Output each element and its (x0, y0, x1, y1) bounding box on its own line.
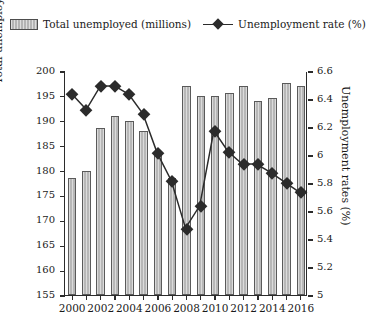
plot-area-wrapper: Total unemployed (millions) Unemployment… (0, 0, 376, 330)
y-tick-right-label: 5.4 (317, 233, 349, 244)
y-tick-right-label: 5.8 (317, 177, 349, 188)
y-tick-right-label: 5.6 (317, 205, 349, 216)
y-tick-left-label: 190 (15, 115, 55, 126)
y-tick-left-label: 175 (15, 189, 55, 200)
y-tick-left-label: 195 (15, 90, 55, 101)
y-tick-left-label: 160 (15, 264, 55, 275)
y-tick-left-label: 155 (15, 289, 55, 300)
y-tick-right-label: 5 (317, 289, 349, 300)
y-tick-left-label: 185 (15, 140, 55, 151)
y-tick-left-label: 200 (15, 65, 55, 76)
y-tick-left-label: 165 (15, 239, 55, 250)
y-tick-left-label: 180 (15, 165, 55, 176)
y-tick-left-label: 170 (15, 214, 55, 225)
y-tick-right-label: 6 (317, 149, 349, 160)
y-tick-right-label: 5.2 (317, 261, 349, 272)
plot-area: 155160165170175180185190195200 55.25.45.… (64, 72, 307, 296)
y-tick-right-label: 6.2 (317, 121, 349, 132)
chart-root: Total unemployed (millions) Unemployment… (0, 0, 376, 330)
line-series (65, 72, 306, 295)
y-tick-right-label: 6.4 (317, 93, 349, 104)
x-tick-label: 2016 (283, 302, 319, 314)
y-axis-left-title: Total unemployed (millions) (0, 0, 5, 84)
y-tick-right-label: 6.6 (317, 65, 349, 76)
